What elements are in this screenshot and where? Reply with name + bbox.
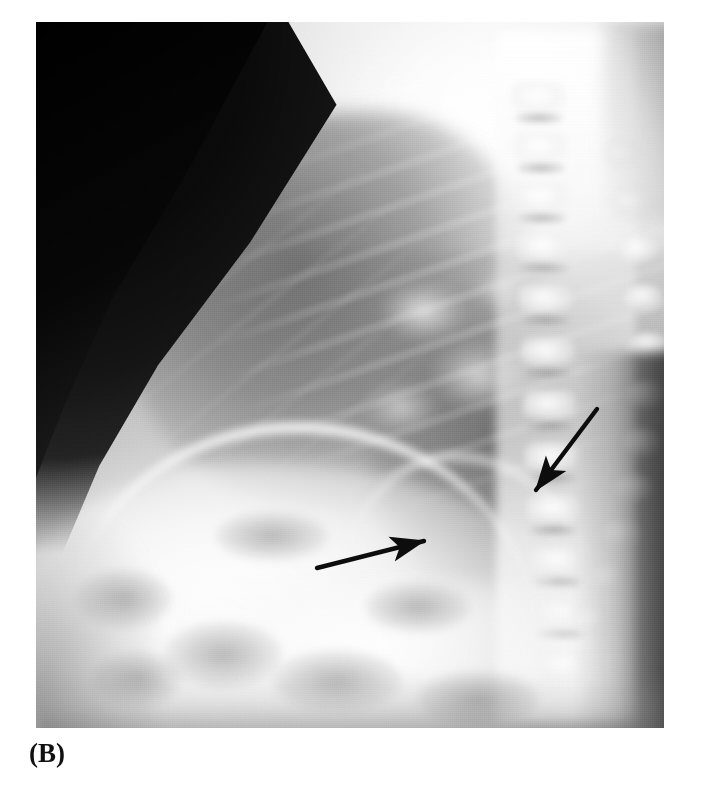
vertebral-body [525, 442, 579, 472]
vertebral-body [523, 390, 577, 420]
figure-plate: (B) [0, 0, 703, 785]
intervertebral-disc-space [524, 368, 572, 378]
vertebral-body [515, 182, 569, 212]
posterior-soft-tissue-upper [604, 22, 664, 222]
intervertebral-disc-space [526, 421, 574, 431]
vertebral-body [512, 82, 566, 112]
vertebral-body [521, 337, 575, 367]
intervertebral-disc-space [520, 263, 568, 273]
panel-label: (B) [29, 740, 65, 767]
rib-head [618, 236, 658, 264]
intervertebral-disc-space [522, 315, 570, 325]
intervertebral-disc-space [517, 163, 565, 173]
intervertebral-disc-space [515, 113, 563, 123]
lower-film-edge-shadow [36, 674, 664, 728]
lateral-chest-radiograph [36, 22, 664, 728]
vertebral-body [517, 232, 571, 262]
posterior-soft-tissue-band [574, 352, 664, 728]
rib-head [624, 284, 664, 312]
vertebral-body [519, 284, 573, 314]
vertebral-body [514, 132, 568, 162]
intervertebral-disc-space [518, 213, 566, 223]
